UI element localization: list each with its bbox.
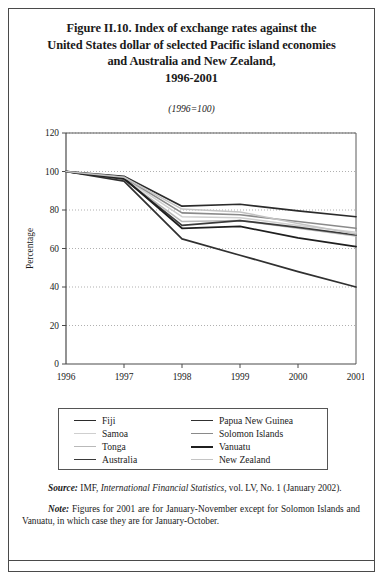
source-note: Source: IMF, International Financial Sta… [22, 482, 360, 495]
title-line-3: and Australia and New Zealand, [18, 53, 365, 70]
legend-item-papua-new-guinea[interactable]: Papua New Guinea [191, 414, 327, 427]
legend-label-papua-new-guinea: Papua New Guinea [219, 415, 293, 426]
legend-column-right: Papua New GuineaSolomon IslandsVanuatuNe… [183, 414, 327, 469]
title-line-2: United States dollar of selected Pacific… [18, 37, 365, 54]
legend-item-tonga[interactable]: Tonga [74, 440, 183, 453]
source-label: Source: [48, 483, 78, 493]
footnote: Note: Figures for 2001 are for January-N… [22, 503, 360, 528]
legend-swatch-samoa [74, 433, 96, 434]
y-tick-label-0: 0 [54, 359, 59, 369]
legend-label-vanuatu: Vanuatu [219, 441, 250, 452]
legend-item-vanuatu[interactable]: Vanuatu [191, 440, 327, 453]
source-publication: International Financial Statistics, [101, 483, 227, 493]
x-tick-label-1996: 1996 [57, 372, 76, 382]
legend-label-samoa: Samoa [102, 428, 128, 439]
legend-swatch-australia [74, 459, 96, 460]
legend-label-tonga: Tonga [102, 441, 126, 452]
data-series-group [66, 172, 356, 288]
title-line-4: 1996-2001 [18, 70, 365, 87]
y-axis-title: Percentage [25, 228, 35, 269]
x-tick-label-1999: 1999 [231, 372, 250, 382]
legend-item-australia[interactable]: Australia [74, 453, 183, 466]
figure-notes: Source: IMF, International Financial Sta… [22, 482, 360, 528]
x-tick-label-1998: 1998 [173, 372, 192, 382]
source-text-1: IMF, [80, 483, 98, 493]
y-tick-label-20: 20 [50, 321, 60, 331]
legend-swatch-solomon-islands [191, 433, 213, 434]
figure-page: Figure II.10. Index of exchange rates ag… [0, 0, 383, 580]
y-tick-label-120: 120 [45, 128, 59, 138]
legend-item-new-zealand[interactable]: New Zealand [191, 453, 327, 466]
axis-labels: 020406080100120199619971998199920002001P… [25, 128, 364, 381]
chart-canvas: 020406080100120199619971998199920002001P… [22, 124, 364, 402]
legend-item-samoa[interactable]: Samoa [74, 427, 183, 440]
x-tick-label-1997: 1997 [115, 372, 134, 382]
figure-subtitle: (1996=100) [18, 103, 365, 114]
title-line-1: Figure II.10. Index of exchange rates ag… [18, 20, 365, 37]
y-tick-label-80: 80 [50, 205, 60, 215]
legend-label-solomon-islands: Solomon Islands [219, 428, 283, 439]
source-text-2: vol. LV, No. 1 (January 2002). [229, 483, 342, 493]
page-bottom-rule [9, 560, 374, 561]
legend-label-australia: Australia [102, 454, 137, 465]
legend-column-left: FijiSamoaTongaAustralia [59, 414, 183, 469]
series-line-solomon-islands [66, 172, 356, 229]
y-tick-label-100: 100 [45, 167, 59, 177]
series-line-new-zealand [66, 172, 356, 235]
figure-title: Figure II.10. Index of exchange rates ag… [18, 20, 365, 86]
note-label: Note: [48, 504, 69, 514]
legend-swatch-new-zealand [191, 459, 213, 460]
note-text: Figures for 2001 are for January-Novembe… [22, 504, 360, 527]
legend-label-new-zealand: New Zealand [219, 454, 270, 465]
legend-item-solomon-islands[interactable]: Solomon Islands [191, 427, 327, 440]
x-tick-label-2000: 2000 [289, 372, 308, 382]
line-chart: 020406080100120199619971998199920002001P… [22, 124, 364, 402]
legend-swatch-tonga [74, 446, 96, 447]
y-tick-label-40: 40 [50, 282, 60, 292]
axis-ticks [62, 133, 298, 368]
y-tick-label-60: 60 [50, 244, 60, 254]
x-tick-label-2001: 2001 [347, 372, 364, 382]
legend-swatch-vanuatu [191, 446, 213, 448]
chart-legend: FijiSamoaTongaAustralia Papua New Guinea… [58, 408, 328, 470]
legend-item-fiji[interactable]: Fiji [74, 414, 183, 427]
legend-swatch-fiji [74, 420, 96, 421]
legend-swatch-papua-new-guinea [191, 420, 213, 421]
legend-label-fiji: Fiji [102, 415, 115, 426]
series-line-vanuatu [66, 172, 356, 247]
